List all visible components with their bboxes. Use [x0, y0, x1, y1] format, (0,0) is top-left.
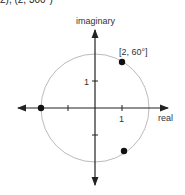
real-label: real [158, 113, 173, 123]
point-300 [121, 148, 127, 154]
point-60 [119, 59, 125, 65]
point-label: [2, 60°] [119, 47, 148, 57]
point-180 [38, 105, 44, 111]
imaginary-label: imaginary [76, 16, 116, 26]
complex-plane-diagram: imaginary real 1 1 [2, 60°] [0, 0, 185, 195]
y-tick-label: 1 [84, 77, 89, 87]
x-tick-label: 1 [119, 114, 124, 124]
